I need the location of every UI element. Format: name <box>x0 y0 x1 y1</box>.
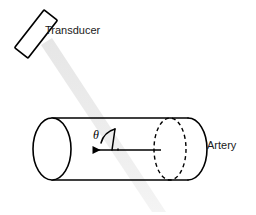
cylinder-left-cap <box>33 118 71 180</box>
angle-theta-label: θ <box>93 128 99 142</box>
artery-label: Artery <box>207 139 237 151</box>
transducer-label: Transducer <box>45 24 101 36</box>
artery-cylinder <box>33 118 207 180</box>
ultrasound-artery-diagram: Transducer Artery θ <box>0 0 256 215</box>
diagram-canvas: Transducer Artery θ <box>0 0 256 215</box>
